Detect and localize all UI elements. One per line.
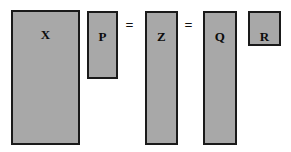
matrix-block-r: R (248, 11, 281, 46)
matrix-label-p: P (89, 30, 116, 43)
equals-operator-1: = (123, 19, 136, 33)
matrix-block-x: X (11, 10, 80, 145)
equals-operator-2: = (182, 19, 195, 33)
matrix-block-z: Z (145, 11, 178, 145)
matrix-label-x: X (13, 28, 78, 41)
matrix-equation-diagram: X P = Z = Q R (0, 0, 291, 152)
matrix-label-r: R (250, 30, 279, 43)
matrix-block-p: P (87, 11, 118, 79)
matrix-label-q: Q (205, 30, 235, 43)
matrix-label-z: Z (147, 30, 176, 43)
matrix-block-q: Q (203, 11, 237, 145)
